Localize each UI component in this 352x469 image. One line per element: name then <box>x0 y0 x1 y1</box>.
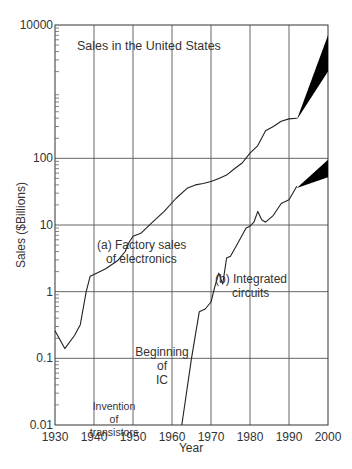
projection-wedge-b <box>297 160 328 188</box>
svg-text:10000: 10000 <box>20 18 54 32</box>
svg-text:0.1: 0.1 <box>36 351 53 365</box>
series-b-label: (b) Integrated <box>215 272 287 286</box>
chart-title: Sales in the United States <box>77 39 221 53</box>
projection-wedge-a <box>297 35 328 119</box>
series-b-label-2: circuits <box>232 286 269 300</box>
series-a-label: (a) Factory sales <box>97 238 186 252</box>
svg-text:2000: 2000 <box>315 430 342 444</box>
y-minor-ticks <box>55 28 59 405</box>
series-line-a <box>55 118 297 348</box>
svg-text:1930: 1930 <box>42 430 69 444</box>
svg-text:100: 100 <box>33 151 53 165</box>
svg-text:Invention: Invention <box>93 400 136 412</box>
svg-text:IC: IC <box>156 373 168 387</box>
series-line-b <box>182 186 297 425</box>
svg-text:of: of <box>157 359 168 373</box>
series-a-label-2: of electronics <box>106 252 177 266</box>
svg-text:1980: 1980 <box>237 430 264 444</box>
svg-text:1: 1 <box>46 285 53 299</box>
svg-text:1990: 1990 <box>276 430 303 444</box>
svg-text:transistors: transistors <box>90 426 138 438</box>
grid-lines <box>55 25 328 425</box>
svg-text:10: 10 <box>40 218 54 232</box>
annotation-beginning-ic: Beginning of IC <box>135 345 188 387</box>
svg-text:Beginning: Beginning <box>135 345 188 359</box>
x-axis-label: Year <box>179 441 203 455</box>
series-lines <box>55 35 328 425</box>
annotation-invention-transistors: Invention of transistors <box>90 400 138 438</box>
y-axis-label: Sales ($Billions) <box>14 182 28 268</box>
svg-text:of: of <box>110 413 119 425</box>
sales-chart: 100001001010.10.01 193019401950196019701… <box>0 0 352 469</box>
